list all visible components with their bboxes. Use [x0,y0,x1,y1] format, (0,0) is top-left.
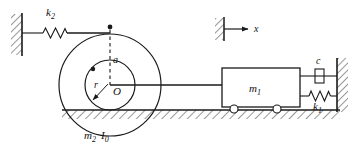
attachment-pin-dot [108,25,113,30]
mass-m1-box [222,68,300,107]
radius-r-label: r [94,79,98,90]
cylinder-mass-inertia-label: m2I0 [84,129,109,144]
mass-m1-wheel-right [273,105,281,113]
left-wall-hatching [11,14,22,55]
right-wall-support [337,58,348,112]
left-wall-support [11,13,22,56]
damper-c [300,69,337,83]
inner-circle-marker-dot [91,67,95,71]
mass-m1-assembly [222,68,300,113]
x-coordinate-reference [215,17,248,41]
right-wall-hatching [337,58,348,112]
ground-hatching [62,110,340,119]
diagram-canvas: k2 a r O m2I0 m1 c [0,0,357,155]
spring-k2 [22,28,110,38]
center-O-label: O [113,85,121,97]
ground-surface [62,110,340,119]
x-axis-label: x [253,23,259,34]
x-ref-wall-hatching [215,18,224,40]
spring-k2-coil [43,28,67,38]
spring-k2-label: k2 [46,6,55,21]
mass-m1-wheel-left [230,105,238,113]
offset-a-label: a [113,54,118,65]
mechanical-system-diagram: k2 a r O m2I0 m1 c [0,0,357,155]
damper-c-label: c [316,55,321,66]
spring-k1 [300,91,337,101]
